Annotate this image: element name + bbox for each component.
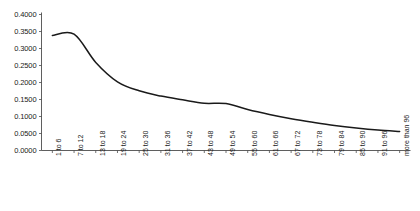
y-axis-tick-label: 0.3500: [14, 28, 36, 36]
x-axis-tick-label: more than 96: [403, 114, 410, 155]
x-axis-tick-label: 79 to 84: [338, 130, 345, 155]
x-axis-tick-label: 73 to 78: [316, 130, 323, 155]
x-axis-tick-label: 43 to 48: [207, 130, 214, 155]
x-axis-tick-label: 19 to 24: [120, 130, 127, 155]
data-series-line: [52, 32, 399, 131]
y-axis-tick-label: 0.0000: [14, 147, 36, 155]
x-axis-tick-label: 13 to 18: [99, 130, 106, 155]
y-axis-tick-label: 0.1000: [14, 113, 36, 121]
y-axis-tick-label: 0.3000: [14, 45, 36, 53]
x-axis-tick-label: 91 to 96: [381, 130, 388, 155]
y-axis-tick-label: 0.2000: [14, 79, 36, 87]
x-axis-tick-label: 31 to 36: [164, 130, 171, 155]
x-axis-tick-label: 67 to 72: [294, 130, 301, 155]
x-axis-tick-label: 37 to 42: [186, 130, 193, 155]
x-axis-tick-label: 85 to 90: [359, 130, 366, 155]
y-axis-tick-label: 0.2500: [14, 62, 36, 70]
x-axis-tick-label: 49 to 54: [229, 130, 236, 155]
chart-container: 0.40000.35000.30000.25000.20000.15000.10…: [0, 0, 420, 211]
x-axis-tick-label: 55 to 60: [251, 130, 258, 155]
x-axis-tick-label: 25 to 30: [142, 130, 149, 155]
y-axis-tick-label: 0.4000: [14, 11, 36, 19]
x-axis-tick-label: 7 to 12: [77, 134, 84, 155]
line-chart-plot: [0, 0, 420, 211]
chart-axes: [42, 13, 411, 151]
x-axis-tick-label: 61 to 66: [272, 130, 279, 155]
x-axis-tick-label: 1 to 6: [55, 138, 62, 156]
y-axis-tick-label: 0.1500: [14, 96, 36, 104]
y-axis-tick-label: 0.0500: [14, 130, 36, 138]
